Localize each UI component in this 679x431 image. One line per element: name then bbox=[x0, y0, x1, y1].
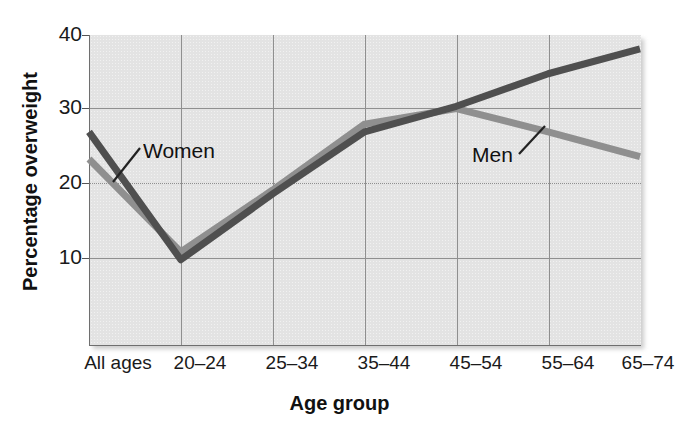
chart-figure: 40 30 20 10 All ages 20–24 25–34 35–44 4… bbox=[0, 0, 679, 431]
series-label-men: Men bbox=[472, 143, 513, 167]
series-overlay bbox=[0, 0, 679, 431]
series-label-women: Women bbox=[143, 139, 215, 163]
